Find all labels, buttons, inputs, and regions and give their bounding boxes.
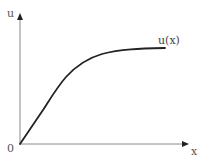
curve-u-of-x: [20, 48, 165, 144]
plot-area: [0, 0, 201, 160]
curve-label: u(x): [158, 35, 180, 46]
x-axis-label: x: [191, 146, 197, 157]
x-axis-arrow-icon: [182, 141, 189, 147]
origin-label: 0: [7, 143, 14, 154]
y-axis-arrow-icon: [17, 13, 23, 20]
chart: u x 0 u(x): [0, 0, 201, 160]
y-axis-label: u: [7, 8, 14, 19]
